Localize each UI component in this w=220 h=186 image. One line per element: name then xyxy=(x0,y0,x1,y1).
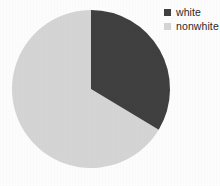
legend-label-white: white xyxy=(176,6,201,18)
legend-item-white[interactable]: white xyxy=(164,5,220,19)
chart-legend: white nonwhite xyxy=(164,5,220,33)
legend-swatch-nonwhite-icon xyxy=(164,23,171,30)
legend-label-nonwhite: nonwhite xyxy=(176,20,219,32)
legend-swatch-white-icon xyxy=(164,9,171,16)
legend-item-nonwhite[interactable]: nonwhite xyxy=(164,19,220,33)
pie-chart-figure: white nonwhite xyxy=(0,0,220,186)
pie-slices xyxy=(12,10,170,168)
